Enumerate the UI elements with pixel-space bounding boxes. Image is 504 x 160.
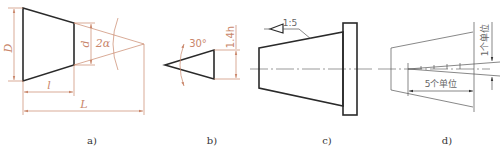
height-label: 1.4h <box>225 26 236 48</box>
angle-label: 30° <box>189 38 207 49</box>
horizontal-units-label: 5个单位 <box>425 78 458 89</box>
vertical-units-label: 1个单位 <box>479 24 490 57</box>
panel-b: 1.4h 30° b) <box>165 25 240 146</box>
taper-symbol-icon <box>270 24 283 33</box>
unit-triangle-top <box>408 62 500 69</box>
D-label: D <box>2 43 15 53</box>
leader-line <box>283 29 311 39</box>
l-label: l <box>47 79 51 92</box>
angle-arc <box>180 44 184 86</box>
caption-c: c) <box>322 135 332 146</box>
tapered-outline <box>391 32 473 107</box>
angle-arc <box>113 18 118 70</box>
caption-d: d) <box>442 135 452 146</box>
taper-diagram: D d 2α l L a) 1.4h 30° b) <box>0 0 504 160</box>
d-label: d <box>79 40 92 47</box>
panel-d: 5个单位 1个单位 d) <box>378 22 500 146</box>
taper-symbol-triangle <box>165 50 214 79</box>
caption-b: b) <box>207 135 217 146</box>
L-label: L <box>79 98 87 111</box>
frustum-outline <box>23 8 74 81</box>
panel-a: D d 2α l L a) <box>2 8 144 146</box>
panel-c: 1:5 c) <box>250 18 372 146</box>
caption-a: a) <box>87 135 97 146</box>
unit-triangle-bottom <box>408 69 500 76</box>
angle-label: 2α <box>95 37 111 50</box>
taper-ratio-label: 1:5 <box>283 18 297 28</box>
